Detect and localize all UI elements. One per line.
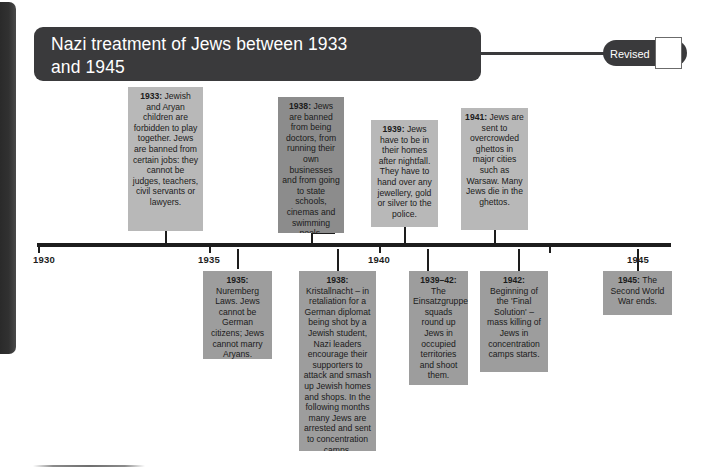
stem-1933	[165, 230, 167, 245]
event-year: 1939–42:	[420, 275, 456, 285]
event-year: 1945:	[618, 275, 640, 285]
event-card-1938-top[interactable]: 1938: Jews are banned from being doctors…	[278, 97, 344, 233]
stem-1938-bottom	[337, 249, 339, 271]
event-card-1938-bottom[interactable]: 1938: Kristallnacht – in retaliation for…	[299, 271, 376, 451]
revised-label: Revised	[610, 48, 650, 60]
stem-1945	[637, 249, 639, 271]
stem-1941-top	[494, 229, 496, 245]
stem-1942	[518, 249, 520, 271]
stem-1939-42	[427, 249, 429, 271]
revised-badge[interactable]: Revised	[603, 37, 691, 70]
axis-year-label: 1935	[198, 254, 220, 265]
axis-year-label: 1940	[368, 254, 390, 265]
event-text: Beginning of the 'Final Solution' – mass…	[487, 286, 541, 360]
event-text: Jews have to be in their homes after nig…	[377, 124, 431, 219]
axis-year-label: 1930	[33, 254, 55, 265]
page-title-banner: Nazi treatment of Jews between 1933 and …	[34, 27, 481, 81]
axis-tick-1945	[549, 243, 551, 253]
stem-1935	[237, 249, 239, 269]
stem-1938-top	[311, 232, 313, 246]
bottom-divider	[33, 465, 145, 467]
event-text: Jews are banned from being doctors, from…	[282, 101, 339, 233]
page-title: Nazi treatment of Jews between 1933 and …	[51, 33, 465, 79]
event-year: 1942:	[503, 275, 525, 285]
timeline-axis	[37, 243, 671, 247]
axis-tick-1940	[379, 243, 381, 253]
event-text: Jews are sent to overcrowded ghettos in …	[466, 112, 524, 207]
event-year: 1933:	[140, 91, 162, 101]
event-card-1941-top[interactable]: 1941: Jews are sent to overcrowded ghett…	[461, 108, 528, 230]
event-text: The Einsatzgruppen squads round up Jews …	[413, 286, 468, 381]
event-year: 1935:	[227, 275, 249, 285]
left-edge-strip	[0, 2, 16, 354]
event-card-1933[interactable]: 1933: Jewish and Aryan children are forb…	[128, 87, 203, 231]
axis-tick-1930	[38, 243, 40, 253]
revised-checkbox[interactable]	[655, 37, 682, 69]
event-year: 1938:	[289, 101, 311, 111]
axis-tick-1935	[209, 243, 211, 253]
event-card-1945[interactable]: 1945: The Second World War ends.	[603, 271, 672, 315]
event-text: Nuremberg Laws. Jews cannot be German ci…	[211, 286, 264, 359]
event-card-1939-42[interactable]: 1939–42: The Einsatzgruppen squads round…	[409, 271, 468, 385]
event-year: 1938:	[327, 275, 349, 285]
event-year: 1939:	[383, 124, 405, 134]
event-card-1942[interactable]: 1942: Beginning of the 'Final Solution' …	[480, 271, 548, 372]
event-year: 1941:	[465, 112, 487, 122]
event-text: Kristallnacht – in retaliation for a Ger…	[304, 286, 371, 451]
event-card-1935[interactable]: 1935: Nuremberg Laws. Jews cannot be Ger…	[203, 271, 272, 359]
stem-1939-top	[404, 226, 406, 245]
event-text: Jewish and Aryan children are forbidden …	[133, 91, 198, 207]
revised-connector-line	[481, 52, 606, 55]
event-card-1939-top[interactable]: 1939: Jews have to be in their homes aft…	[371, 120, 438, 227]
